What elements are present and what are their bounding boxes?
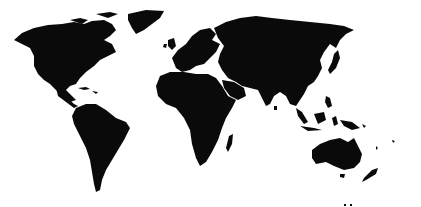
world-map — [0, 0, 421, 207]
world-map-svg — [0, 0, 421, 207]
sri-lanka — [274, 106, 277, 110]
